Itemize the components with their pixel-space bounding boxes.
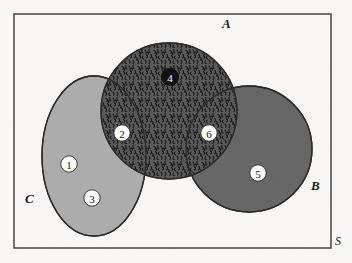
universe-label: S xyxy=(335,234,341,248)
region-marker-1: 1 xyxy=(61,156,77,172)
venn-diagram-figure: 1 2 3 4 5 6 A B C S xyxy=(0,0,352,263)
region-marker-6: 6 xyxy=(201,125,217,141)
region-marker-6-label: 6 xyxy=(206,128,212,140)
region-marker-4: 4 xyxy=(161,68,178,85)
set-label-b: B xyxy=(310,178,320,193)
venn-diagram-canvas: 1 2 3 4 5 6 A B C S xyxy=(0,0,352,263)
region-marker-3-label: 3 xyxy=(89,193,95,205)
set-label-c: C xyxy=(25,191,34,206)
region-marker-2-label: 2 xyxy=(119,128,125,140)
region-marker-5: 5 xyxy=(250,165,266,181)
region-marker-4-label: 4 xyxy=(167,72,173,84)
region-marker-2: 2 xyxy=(114,125,130,141)
region-marker-3: 3 xyxy=(84,190,100,206)
region-marker-1-label: 1 xyxy=(66,159,72,171)
set-label-a: A xyxy=(221,16,231,31)
region-marker-5-label: 5 xyxy=(255,168,261,180)
